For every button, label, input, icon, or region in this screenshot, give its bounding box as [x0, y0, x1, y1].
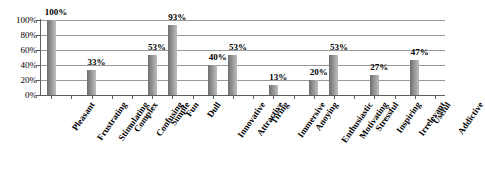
- x-axis-tick-mark: [435, 95, 436, 99]
- y-axis-tick-mark: [36, 95, 41, 96]
- bar-value-label: 27%: [364, 63, 394, 72]
- x-axis-category-label: Tiring: [268, 100, 290, 126]
- x-axis-tick-mark: [395, 95, 396, 99]
- x-axis-tick-mark: [374, 95, 375, 99]
- x-axis-category-labels: PleasantFrustratingStimulatingComplexCon…: [41, 100, 445, 176]
- y-axis-tick-mark: [36, 80, 41, 81]
- y-axis-tick-labels: 0%20%40%60%80%100%: [0, 0, 40, 176]
- bar-value-label: 13%: [263, 73, 293, 82]
- x-axis-tick-mark: [334, 95, 335, 99]
- x-axis-tick-mark: [354, 95, 355, 99]
- x-axis-tick-mark: [132, 95, 133, 99]
- x-axis-tick-mark: [253, 95, 254, 99]
- y-axis-tick-mark: [36, 65, 41, 66]
- x-axis-tick-mark: [294, 95, 295, 99]
- x-axis-tick-mark: [152, 95, 153, 99]
- y-axis-tick-label: 100%: [16, 16, 37, 25]
- x-axis-tick-mark: [112, 95, 113, 99]
- x-axis-tick-mark: [213, 95, 214, 99]
- x-axis-category-label: Dull: [205, 100, 223, 119]
- y-axis-tick-label: 60%: [21, 46, 38, 55]
- x-axis-tick-mark: [314, 95, 315, 99]
- bar-value-label: 53%: [142, 43, 172, 52]
- bar-value-label: 53%: [223, 43, 253, 52]
- x-axis-tick-mark: [172, 95, 173, 99]
- x-axis-tick-mark: [233, 95, 234, 99]
- x-axis-tick-mark: [415, 95, 416, 99]
- bar-value-label: 47%: [405, 48, 435, 57]
- y-axis-tick-label: 80%: [21, 31, 38, 40]
- y-axis-tick-label: 40%: [21, 61, 38, 70]
- bar-value-label: 33%: [82, 58, 112, 67]
- y-axis-tick-mark: [36, 50, 41, 51]
- bar-value-label: 40%: [203, 53, 233, 62]
- x-axis-tick-mark: [193, 95, 194, 99]
- bar-value-label: 20%: [304, 68, 334, 77]
- x-axis-tick-mark: [273, 95, 274, 99]
- bar-value-label: 53%: [324, 43, 354, 52]
- x-axis-tick-mark: [51, 95, 52, 99]
- x-axis-tick-mark: [71, 95, 72, 99]
- x-axis-tick-mark: [92, 95, 93, 99]
- data-labels-layer: 100%33%53%93%40%53%13%20%53%27%47%: [41, 0, 445, 100]
- bar-value-label: 93%: [162, 13, 192, 22]
- y-axis-tick-label: 20%: [21, 76, 38, 85]
- y-axis-tick-mark: [36, 20, 41, 21]
- x-axis-category-label: Addictive: [456, 100, 485, 136]
- bar-value-label: 100%: [41, 8, 71, 17]
- x-axis-category-label: Pleasant: [70, 100, 97, 132]
- y-axis-tick-mark: [36, 35, 41, 36]
